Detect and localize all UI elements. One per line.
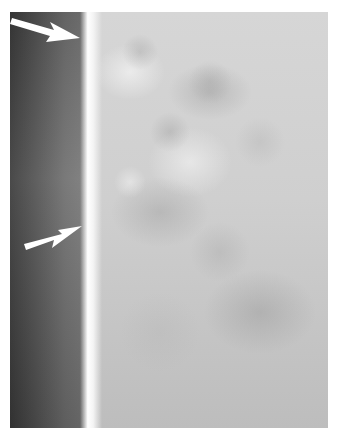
arrow-icon-bottom	[24, 220, 94, 260]
arrow-icon-top	[10, 12, 100, 52]
radiograph-image	[10, 12, 328, 428]
mottled-texture-region	[100, 12, 328, 428]
